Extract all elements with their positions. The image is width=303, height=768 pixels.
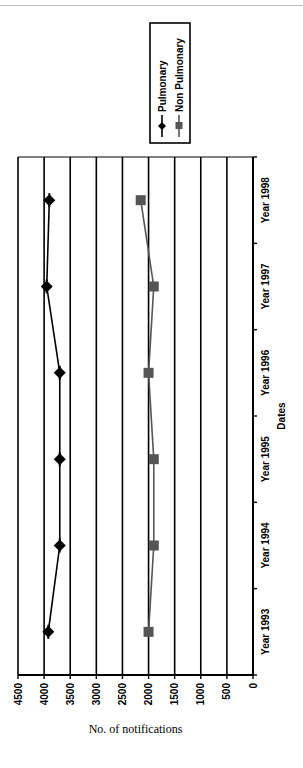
legend-marker-square (176, 122, 183, 129)
x-tick-label: Year 1996 (260, 349, 271, 396)
y-tick-label: 3500 (65, 683, 76, 706)
x-tick-label: Year 1993 (260, 608, 271, 655)
y-tick-label: 2000 (143, 683, 154, 706)
y-tick-label: 2500 (117, 683, 128, 706)
legend-label: Non Pulmonary (174, 38, 185, 112)
x-tick-label: Year 1998 (260, 177, 271, 224)
series-line-1 (141, 200, 154, 632)
data-point-non-pulmonary (144, 627, 154, 637)
series-line-0 (47, 200, 60, 632)
y-axis-title: No. of notifications (89, 722, 183, 736)
data-point-non-pulmonary (136, 195, 146, 205)
rotated-chart: 050010001500200025003000350040004500Year… (0, 0, 303, 768)
x-tick-label: Year 1994 (260, 522, 271, 569)
y-tick-label: 4500 (13, 683, 24, 706)
y-tick-label: 1000 (195, 683, 206, 706)
x-axis-title: Dates (276, 402, 287, 430)
legend-label: Pulmonary (157, 60, 168, 112)
data-point-non-pulmonary (144, 368, 154, 378)
y-tick-label: 0 (248, 683, 259, 689)
data-point-non-pulmonary (149, 454, 159, 464)
y-tick-label: 4000 (39, 683, 50, 706)
x-tick-label: Year 1995 (260, 436, 271, 483)
y-tick-label: 1500 (169, 683, 180, 706)
y-tick-label: 500 (221, 683, 232, 700)
data-point-non-pulmonary (149, 541, 159, 551)
y-tick-label: 3000 (91, 683, 102, 706)
data-point-non-pulmonary (149, 282, 159, 292)
line-chart: 050010001500200025003000350040004500Year… (0, 0, 303, 768)
x-tick-label: Year 1997 (260, 263, 271, 310)
